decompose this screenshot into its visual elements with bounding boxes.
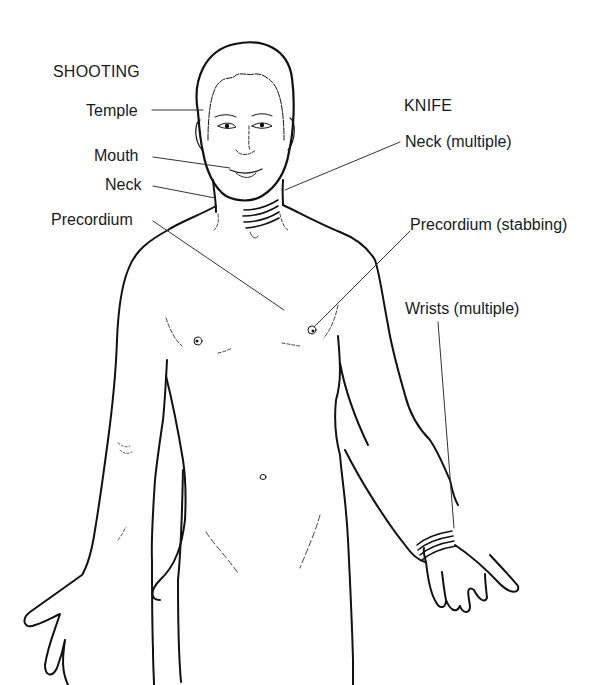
- torso-left: [152, 360, 167, 685]
- leader-wrists-multiple: [438, 322, 454, 528]
- mouth: [230, 169, 262, 173]
- leader-precordium: [153, 221, 284, 310]
- leader-lines: [152, 110, 454, 528]
- shooting-heading: SHOOTING: [53, 63, 140, 81]
- navel: [260, 475, 266, 480]
- leader-mouth: [153, 157, 230, 168]
- label-precordium-stabbing: Precordium (stabbing): [410, 216, 567, 234]
- body-diagram: SHOOTING Temple Mouth Neck Precordium KN…: [0, 0, 612, 685]
- label-mouth: Mouth: [94, 147, 138, 165]
- body-left-outline: [25, 206, 216, 685]
- wrist-knife-wounds: [417, 531, 456, 560]
- body-right-outline: [283, 205, 458, 505]
- torso-right: [335, 336, 353, 685]
- hairline: [208, 74, 284, 140]
- label-precordium: Precordium: [51, 211, 133, 229]
- neck-knife-wounds: [243, 200, 279, 228]
- leader-neck: [153, 186, 215, 198]
- leader-neck-multiple: [285, 142, 400, 190]
- label-neck: Neck: [105, 176, 141, 194]
- label-temple: Temple: [86, 102, 138, 120]
- right-hand: [426, 545, 518, 612]
- label-wrists-multiple: Wrists (multiple): [405, 300, 519, 318]
- head-outline: [197, 42, 294, 200]
- label-neck-multiple: Neck (multiple): [405, 133, 512, 151]
- knife-heading: KNIFE: [404, 97, 452, 115]
